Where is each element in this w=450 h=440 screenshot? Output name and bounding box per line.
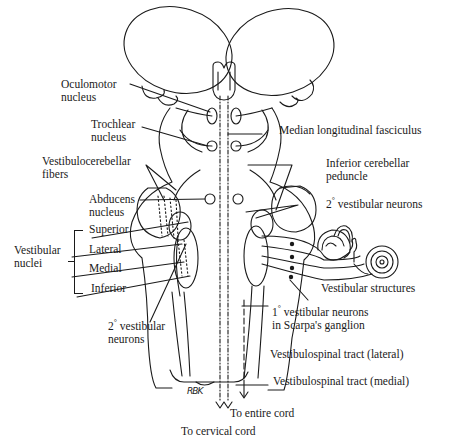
label-medial: Medial [89, 262, 122, 275]
label-inferior-cerebellar-peduncle: Inferior cerebellar peduncle [326, 157, 409, 183]
label-primary-vestibular-neurons: 1° vestibular neurons in Scarpa's gangli… [272, 306, 368, 332]
label-trochlear-nucleus: Trochlear nucleus [91, 118, 135, 144]
inner-ear [318, 226, 398, 278]
label-vestibulospinal-medial: Vestibulospinal tract (medial) [273, 375, 409, 388]
left-colliculus [113, 0, 244, 107]
label-to-cervical-cord: To cervical cord [181, 425, 256, 438]
label-lateral: Lateral [89, 243, 122, 256]
label-median-longitudinal-fasciculus: Median longitudinal fasciculus [279, 124, 421, 137]
label-secondary-vestibular-neurons-left: 2° vestibular neurons [108, 320, 165, 346]
label-to-entire-cord: To entire cord [230, 407, 294, 420]
scarpa-ganglion-dots [289, 242, 294, 279]
label-secondary-vestibular-neurons-right: 2° vestibular neurons [326, 198, 422, 211]
label-abducens-nucleus: Abducens nucleus [89, 193, 135, 219]
label-vestibulocerebellar-fibers: Vestibulocerebellar fibers [42, 155, 131, 181]
vestibular-nuclei-bracket [74, 230, 83, 294]
label-inferior: Inferior [91, 282, 126, 295]
label-vestibulospinal-lateral: Vestibulospinal tract (lateral) [270, 348, 403, 361]
label-vestibular-structures: Vestibular structures [321, 282, 415, 295]
artist-signature: RBK [187, 386, 202, 396]
bracket-tick [68, 261, 74, 262]
label-superior: Superior [89, 223, 129, 236]
label-vestibular-nuclei: Vestibular nuclei [14, 244, 61, 270]
brainstem-diagram [0, 0, 450, 440]
label-oculomotor-nucleus: Oculomotor nucleus [61, 78, 117, 104]
